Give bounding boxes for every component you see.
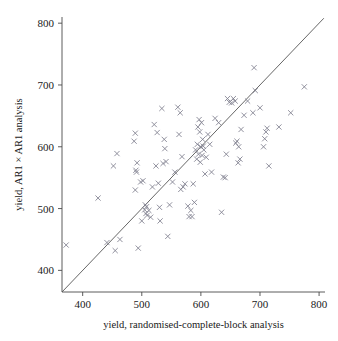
data-point-marker — [64, 242, 69, 247]
data-point-marker — [261, 144, 266, 149]
data-point-marker — [216, 120, 221, 125]
data-point-marker — [113, 248, 118, 253]
identity-line — [62, 18, 324, 292]
data-point-marker — [170, 179, 175, 184]
y-tick-label: 600 — [38, 141, 55, 153]
data-point-marker — [191, 181, 196, 186]
y-tick-label: 500 — [38, 203, 55, 215]
data-point-marker — [231, 96, 236, 101]
data-point-marker — [251, 65, 256, 70]
data-point-marker — [192, 200, 197, 205]
data-point-marker — [241, 113, 246, 118]
x-tick-label: 600 — [193, 298, 210, 310]
data-point-marker — [111, 163, 116, 168]
data-points-group — [64, 65, 307, 253]
data-point-marker — [224, 152, 229, 157]
data-point-marker — [245, 98, 250, 103]
data-point-marker — [179, 154, 184, 159]
x-tick-label: 800 — [311, 298, 328, 310]
y-axis-title: yield, AR1 × AR1 analysis — [13, 98, 24, 210]
data-point-marker — [198, 160, 203, 165]
x-axis-ticks: 400500600700800 — [74, 292, 327, 310]
y-tick-label: 400 — [38, 264, 55, 276]
data-point-marker — [200, 137, 205, 142]
data-point-marker — [264, 126, 269, 131]
data-point-marker — [155, 130, 160, 135]
x-tick-label: 500 — [134, 298, 151, 310]
data-point-marker — [95, 195, 100, 200]
data-point-marker — [158, 218, 163, 223]
data-point-marker — [288, 110, 293, 115]
data-point-marker — [139, 218, 144, 223]
data-point-marker — [140, 178, 145, 183]
data-point-marker — [207, 142, 212, 147]
data-point-marker — [302, 84, 307, 89]
data-point-marker — [205, 132, 210, 137]
data-point-marker — [219, 210, 224, 215]
data-point-marker — [236, 144, 241, 149]
data-point-marker — [209, 170, 214, 175]
data-point-marker — [266, 163, 271, 168]
data-point-marker — [117, 237, 122, 242]
data-point-marker — [201, 147, 206, 152]
data-point-marker — [152, 122, 157, 127]
x-tick-label: 400 — [74, 298, 91, 310]
data-point-marker — [195, 142, 200, 147]
data-point-marker — [276, 124, 281, 129]
data-point-marker — [178, 110, 183, 115]
data-point-marker — [143, 202, 148, 207]
y-tick-label: 700 — [38, 79, 55, 91]
data-point-marker — [136, 246, 141, 251]
data-point-marker — [153, 163, 158, 168]
data-point-marker — [186, 214, 191, 219]
data-point-marker — [162, 146, 167, 151]
data-point-marker — [175, 105, 180, 110]
data-point-marker — [238, 127, 243, 132]
scatter-plot-figure: 400500600700800 400500600700800 yield, r… — [0, 0, 338, 341]
data-point-marker — [150, 184, 155, 189]
data-point-marker — [156, 181, 161, 186]
data-point-marker — [189, 214, 194, 219]
data-point-marker — [132, 139, 137, 144]
data-point-marker — [262, 136, 267, 141]
data-point-marker — [250, 110, 255, 115]
data-point-marker — [199, 120, 204, 125]
y-tick-label: 800 — [38, 17, 55, 29]
data-point-marker — [114, 151, 119, 156]
plot-canvas: 400500600700800 400500600700800 yield, r… — [0, 0, 338, 341]
data-point-marker — [263, 129, 268, 134]
data-point-marker — [167, 202, 172, 207]
data-point-marker — [253, 88, 258, 93]
data-point-marker — [162, 137, 167, 142]
data-point-marker — [212, 116, 217, 121]
data-point-marker — [160, 161, 165, 166]
data-point-marker — [195, 124, 200, 129]
data-point-marker — [157, 205, 162, 210]
x-tick-label: 700 — [252, 298, 269, 310]
data-point-marker — [176, 132, 181, 137]
data-point-marker — [163, 159, 168, 164]
data-point-marker — [197, 117, 202, 122]
data-point-marker — [133, 131, 138, 136]
data-point-marker — [188, 208, 193, 213]
data-point-marker — [197, 129, 202, 134]
data-point-marker — [257, 105, 262, 110]
data-point-marker — [202, 171, 207, 176]
data-point-marker — [185, 204, 190, 209]
one-to-one-reference-line — [62, 18, 324, 292]
data-point-marker — [134, 160, 139, 165]
data-point-marker — [159, 106, 164, 111]
data-point-marker — [165, 234, 170, 239]
x-axis-title: yield, randomised-complete-block analysi… — [103, 319, 284, 330]
y-axis-ticks: 400500600700800 — [38, 17, 63, 276]
data-point-marker — [133, 187, 138, 192]
data-point-marker — [234, 139, 239, 144]
